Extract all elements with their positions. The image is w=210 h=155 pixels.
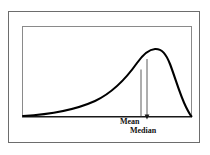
median-label: Median bbox=[130, 126, 156, 135]
mean-label: Mean bbox=[120, 117, 140, 126]
distribution-plot bbox=[0, 0, 210, 155]
figure-root: Mean Median bbox=[0, 0, 210, 155]
density-curve bbox=[23, 49, 192, 116]
